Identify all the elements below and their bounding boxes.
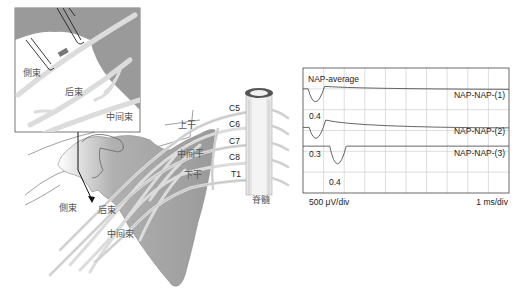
peak-label-2: 0.3 <box>309 149 321 159</box>
inset-label-posterior-cord: 后束 <box>65 87 83 97</box>
label-lateral-cord: 側束 <box>59 202 77 213</box>
label-spinal-cord: 脊髓 <box>252 194 270 205</box>
series-label-3: NAP-NAP-(3) <box>454 148 505 158</box>
root-label-t1: T1 <box>231 169 241 179</box>
y-scale-label: 500 μV/div <box>309 197 350 207</box>
x-scale-label: 1 ms/div <box>476 197 508 207</box>
root-label-c5: C5 <box>229 103 240 113</box>
chart-title: NAP-average <box>308 74 359 84</box>
inset-label-lateral-cord: 側束 <box>23 67 41 78</box>
inset-detail: 側束 后束 中间束 <box>15 8 140 135</box>
nap-chart: NAP-average NAP-NAP-(1) NAP-NAP-(2) NAP-… <box>295 60 518 210</box>
root-label-c7: C7 <box>229 136 240 146</box>
label-posterior-cord: 后束 <box>98 205 116 215</box>
spinal-column <box>245 88 273 195</box>
peak-label-1: 0.4 <box>309 111 321 121</box>
label-upper-trunk: 上干 <box>178 120 196 130</box>
root-label-c6: C6 <box>229 119 240 129</box>
peak-label-3: 0.4 <box>329 177 341 187</box>
arrow-head-icon <box>88 196 95 203</box>
series-label-2: NAP-NAP-(2) <box>454 126 505 136</box>
root-label-c8: C8 <box>229 152 240 162</box>
label-medial-cord: 中间束 <box>107 228 134 239</box>
label-middle-trunk: 中间干 <box>177 148 204 159</box>
spinal-roots-right <box>272 110 288 185</box>
label-lower-trunk: 下干 <box>184 170 202 180</box>
brachial-plexus-illustration: 側束 后束 中间束 上干 中间干 下干 側束 后束 中间束 脊髓 C5 C6 C… <box>0 0 300 295</box>
series-label-1: NAP-NAP-(1) <box>454 90 505 100</box>
inset-label-medial-cord: 中间束 <box>106 111 133 122</box>
